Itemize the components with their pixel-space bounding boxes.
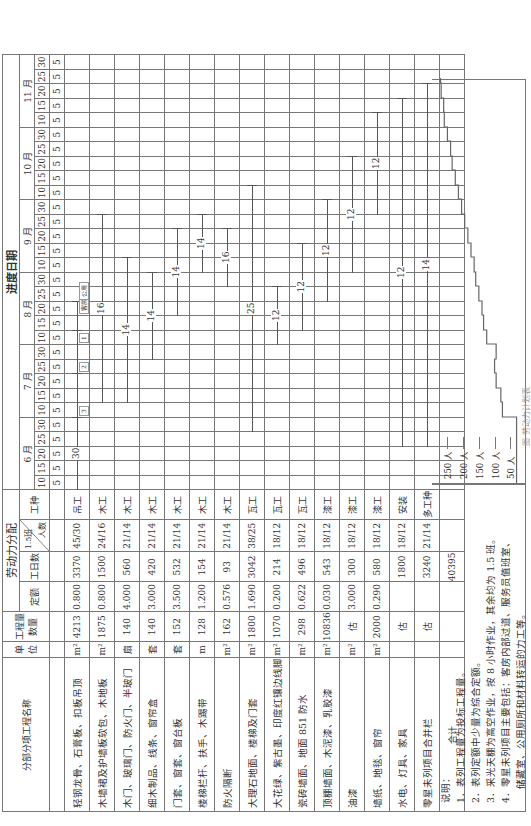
schedule-cell — [90, 185, 115, 200]
schedule-cell — [190, 287, 215, 302]
schedule-cell — [365, 258, 390, 273]
cell-quota: 3.000 — [140, 582, 165, 612]
schedule-cell — [140, 403, 165, 418]
schedule-cell — [340, 403, 365, 418]
schedule-cell — [315, 200, 340, 215]
schedule-cell — [140, 345, 165, 360]
schedule-cell — [340, 171, 365, 186]
schedule-cell — [140, 330, 165, 345]
schedule-cell — [190, 359, 215, 374]
schedule-cell — [215, 84, 240, 99]
schedule-cell — [265, 243, 290, 258]
schedule-cell — [165, 171, 190, 186]
schedule-cell — [365, 330, 390, 345]
schedule-cell — [165, 55, 190, 70]
schedule-cell — [140, 301, 165, 316]
schedule-cell — [65, 98, 90, 113]
schedule-cell — [440, 55, 465, 70]
schedule-cell — [115, 200, 140, 215]
header-people: 人数 — [36, 522, 47, 538]
slot-days-value: 5 — [50, 374, 65, 389]
schedule-cell — [240, 69, 265, 84]
day-mark: 30 — [35, 55, 50, 70]
schedule-cell — [290, 127, 315, 142]
schedule-cell — [190, 403, 215, 418]
schedule-cell — [165, 417, 190, 432]
schedule-cell — [240, 446, 265, 461]
cell-quota: 1.690 — [240, 582, 265, 612]
cell-trade: 瓦工 — [290, 490, 315, 520]
schedule-cell — [365, 214, 390, 229]
day-mark: 25 — [35, 432, 50, 447]
cell-unit: 扇 — [115, 642, 140, 658]
schedule-cell — [65, 330, 90, 345]
labor-schedule-table: 分部分项工程名称 单位 工程量数量 劳动力分配 进度日期 定额 工日数 1.5班… — [2, 54, 465, 812]
schedule-cell — [190, 127, 215, 142]
schedule-cell — [165, 258, 190, 273]
schedule-cell — [315, 142, 340, 157]
schedule-cell — [265, 142, 290, 157]
schedule-cell — [115, 185, 140, 200]
schedule-cell — [240, 258, 265, 273]
schedule-cell — [315, 55, 340, 70]
schedule-cell — [165, 272, 190, 287]
slot-days-value: 5 — [50, 316, 65, 331]
schedule-cell — [140, 475, 165, 490]
schedule-cell — [365, 316, 390, 331]
schedule-cell — [65, 287, 90, 302]
schedule-cell — [65, 69, 90, 84]
schedule-cell — [390, 287, 415, 302]
slot-days-value: 5 — [50, 171, 65, 186]
schedule-cell — [190, 345, 215, 360]
slot-days-value: 5 — [50, 156, 65, 171]
schedule-cell — [215, 475, 240, 490]
schedule-cell — [340, 142, 365, 157]
cell-workdays: 1500 — [90, 552, 115, 582]
schedule-cell — [290, 272, 315, 287]
cell-quota: 3.000 — [340, 582, 365, 612]
cell-trade: 漆工 — [340, 490, 365, 520]
schedule-cell — [365, 475, 390, 490]
schedule-cell — [115, 461, 140, 476]
schedule-cell — [215, 229, 240, 244]
schedule-cell — [365, 127, 390, 142]
cell-trade: 瓦工 — [265, 490, 290, 520]
header-spacer — [50, 520, 65, 552]
schedule-cell — [240, 229, 265, 244]
schedule-cell — [165, 388, 190, 403]
schedule-cell — [115, 113, 140, 128]
cell-quota: 3.500 — [165, 582, 190, 612]
cell-quantity: 140 — [140, 612, 165, 642]
schedule-cell — [215, 55, 240, 70]
schedule-cell — [215, 113, 240, 128]
schedule-cell — [90, 171, 115, 186]
slot-days-value: 5 — [50, 345, 65, 360]
schedule-cell — [390, 417, 415, 432]
schedule-cell — [240, 171, 265, 186]
schedule-cell — [165, 403, 190, 418]
day-mark: 20 — [35, 229, 50, 244]
schedule-cell — [240, 185, 265, 200]
schedule-cell — [165, 330, 190, 345]
schedule-cell — [315, 185, 340, 200]
schedule-cell — [290, 258, 315, 273]
schedule-cell — [65, 461, 90, 476]
schedule-cell — [140, 287, 165, 302]
schedule-cell — [215, 316, 240, 331]
table-row: 水电、灯具、家具估180018/12安装 — [390, 55, 415, 812]
cell-workdays: 532 — [165, 552, 190, 582]
table-row: 大理石地面、楼梯及门套m²18001.690304238/25瓦工 — [240, 55, 265, 812]
schedule-cell — [290, 69, 315, 84]
schedule-cell — [265, 287, 290, 302]
schedule-cell — [265, 272, 290, 287]
schedule-cell — [290, 461, 315, 476]
day-mark: 15 — [35, 388, 50, 403]
schedule-cell — [290, 185, 315, 200]
schedule-cell — [390, 156, 415, 171]
schedule-cell — [65, 113, 90, 128]
cell-shift-people: 21/14 — [140, 520, 165, 552]
schedule-cell — [390, 214, 415, 229]
cell-shift-people: 38/25 — [240, 520, 265, 552]
day-mark: 30 — [35, 272, 50, 287]
schedule-cell — [65, 359, 90, 374]
